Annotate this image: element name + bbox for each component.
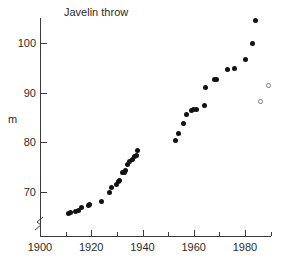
- x-tick-minor-1930: [117, 232, 118, 236]
- y-axis-label: m: [8, 113, 17, 125]
- data-point: [258, 99, 263, 104]
- y-tick-label-70: 70: [0, 187, 36, 198]
- data-point: [181, 121, 186, 126]
- x-tick-label-1920: 1920: [71, 241, 111, 253]
- y-tick-80: [41, 142, 47, 143]
- y-axis-line: [40, 18, 41, 236]
- data-point: [176, 131, 181, 136]
- plot-area: Javelin throw m 708090100 19001920194019…: [0, 0, 281, 263]
- y-tick-label-100: 100: [0, 38, 36, 49]
- y-axis-break-icon: [33, 214, 49, 234]
- data-point: [194, 107, 199, 112]
- x-tick-minor-1990: [271, 232, 272, 236]
- x-tick-label-1940: 1940: [123, 241, 163, 253]
- data-point: [232, 66, 237, 71]
- y-tick-label-90: 90: [0, 88, 36, 99]
- data-point: [107, 190, 112, 195]
- y-tick-70: [41, 192, 47, 193]
- x-tick-minor-1950: [168, 232, 169, 236]
- data-point: [123, 168, 128, 173]
- data-point: [134, 153, 139, 158]
- data-point: [253, 18, 258, 23]
- data-point: [225, 67, 230, 72]
- data-point: [184, 112, 189, 117]
- x-axis-line: [40, 236, 271, 237]
- chart-title: Javelin throw: [64, 6, 128, 18]
- javelin-throw-chart-figure: Javelin throw m 708090100 19001920194019…: [0, 0, 281, 263]
- data-point: [214, 77, 219, 82]
- x-tick-minor-1910: [66, 232, 67, 236]
- data-point: [203, 85, 208, 90]
- data-point: [266, 83, 271, 88]
- data-point: [250, 41, 255, 46]
- data-point: [202, 103, 207, 108]
- data-point: [79, 205, 84, 210]
- data-point: [243, 57, 248, 62]
- x-tick-label-1980: 1980: [225, 241, 265, 253]
- x-tick-1980: [245, 230, 246, 236]
- x-tick-label-1900: 1900: [20, 241, 60, 253]
- data-point: [117, 178, 122, 183]
- data-point: [87, 202, 92, 207]
- y-tick-100: [41, 43, 47, 44]
- x-tick-1920: [91, 230, 92, 236]
- x-tick-1900: [40, 230, 41, 236]
- x-tick-minor-1970: [219, 232, 220, 236]
- y-tick-label-80: 80: [0, 137, 36, 148]
- x-tick-1940: [143, 230, 144, 236]
- x-tick-label-1960: 1960: [174, 241, 214, 253]
- data-point: [135, 148, 140, 153]
- x-tick-1960: [194, 230, 195, 236]
- data-point: [99, 199, 104, 204]
- data-point: [173, 138, 178, 143]
- y-tick-90: [41, 93, 47, 94]
